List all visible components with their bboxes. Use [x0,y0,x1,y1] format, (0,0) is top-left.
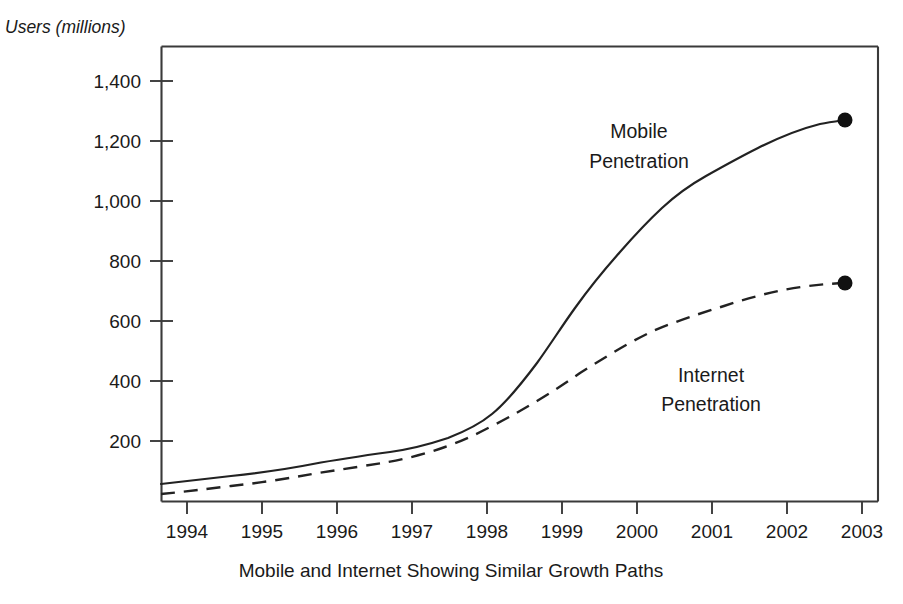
mobile-endpoint-dot [838,113,853,128]
y-tick-label-800: 800 [109,251,141,272]
chart-page: 1,400 1,200 1,000 800 600 400 200 1994 1… [0,0,903,604]
x-tick-label-2002: 2002 [766,521,808,542]
internet-endpoint-dot [838,276,853,291]
x-tick-label-1998: 1998 [466,521,508,542]
internet-penetration-line [161,283,845,494]
chart-caption: Mobile and Internet Showing Similar Grow… [239,560,664,581]
x-tick-label-1997: 1997 [391,521,433,542]
y-tick-label-600: 600 [109,311,141,332]
y-tick-label-200: 200 [109,431,141,452]
mobile-label-line2: Penetration [589,150,689,172]
y-tick-label-400: 400 [109,371,141,392]
x-tick-label-2001: 2001 [691,521,733,542]
y-axis-title: Users (millions) [5,17,126,37]
x-tick-label-2000: 2000 [616,521,658,542]
x-tick-label-1995: 1995 [241,521,283,542]
y-tick-label-1400: 1,400 [93,71,141,92]
line-chart: 1,400 1,200 1,000 800 600 400 200 1994 1… [0,0,903,604]
internet-penetration-annotation: Internet Penetration [661,364,761,415]
x-tick-label-1999: 1999 [541,521,583,542]
internet-label-line2: Penetration [661,393,761,415]
x-axis-ticks [187,501,862,514]
x-tick-label-1996: 1996 [316,521,358,542]
mobile-penetration-line [161,120,845,484]
y-tick-label-1000: 1,000 [93,191,141,212]
x-tick-label-2003: 2003 [841,521,883,542]
x-axis-tick-labels: 1994 1995 1996 1997 1998 1999 2000 2001 … [166,521,883,542]
mobile-label-line1: Mobile [610,120,667,142]
plot-frame [162,47,879,502]
mobile-penetration-annotation: Mobile Penetration [589,120,689,172]
y-axis-tick-labels: 1,400 1,200 1,000 800 600 400 200 [93,71,141,452]
y-tick-label-1200: 1,200 [93,131,141,152]
x-tick-label-1994: 1994 [166,521,209,542]
internet-label-line1: Internet [678,364,745,386]
